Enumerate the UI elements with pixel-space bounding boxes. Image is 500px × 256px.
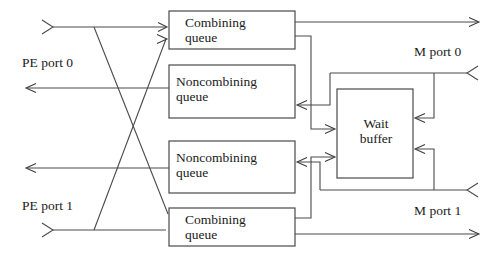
wire-combining0-to-waitbuffer bbox=[295, 36, 335, 134]
wire-mport0-to-waitbuffer bbox=[415, 73, 434, 123]
wire-combining0-to-mport0 bbox=[295, 18, 479, 27]
box-noncombining-queue-1 bbox=[169, 141, 295, 193]
wire-pe1-in-cross-to-combining0 bbox=[94, 35, 167, 231]
box-noncombining-queue-0 bbox=[169, 65, 295, 118]
m-port-1-input-connector bbox=[467, 183, 478, 197]
wire-mport1-to-waitbuffer bbox=[415, 145, 434, 191]
box-wait-buffer bbox=[337, 89, 413, 178]
wire-noncombining1-to-pe1-out bbox=[26, 164, 169, 173]
wire-combining1-to-mport1 bbox=[295, 230, 479, 239]
pe-port-1-input-connector bbox=[42, 223, 53, 237]
wire-pe0-in-to-combining0 bbox=[53, 23, 167, 32]
box-combining-queue-0 bbox=[169, 11, 295, 49]
switch-queue-diagram: Combining queue Noncombining queue Nonco… bbox=[0, 0, 500, 256]
diagram-canvas bbox=[0, 0, 500, 256]
wire-pe0-in-cross-to-combining1 bbox=[94, 27, 168, 214]
pe-port-0-input-connector bbox=[42, 20, 53, 34]
box-combining-queue-1 bbox=[169, 208, 295, 246]
m-port-0-input-connector bbox=[467, 66, 478, 80]
wire-noncombining0-to-pe0-out bbox=[26, 84, 169, 93]
